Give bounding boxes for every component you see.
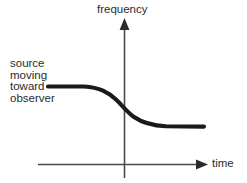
x-axis-label: time [212,157,234,169]
annotation-line-1: source [10,58,55,70]
y-axis-arrowhead-icon [120,18,130,30]
y-axis-label: frequency [97,3,148,15]
source-annotation: source moving toward observer [10,58,55,104]
annotation-line-4: observer [10,93,55,105]
doppler-frequency-diagram: frequency time source moving toward obse… [0,0,247,183]
frequency-curve [48,87,204,127]
x-axis-arrowhead-icon [196,160,208,170]
